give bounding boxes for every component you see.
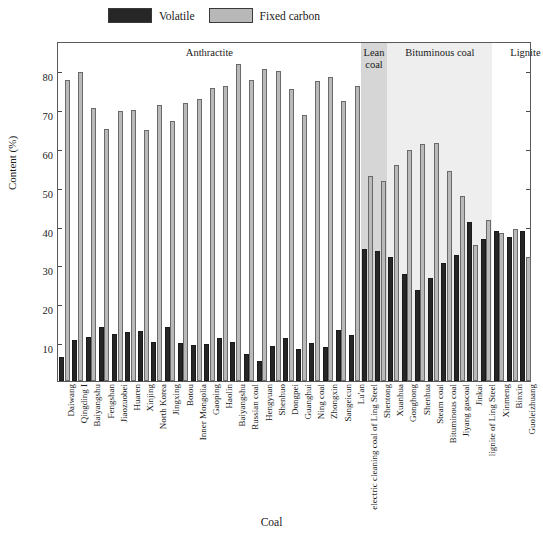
- bar-group[interactable]: [203, 43, 216, 381]
- bar-group[interactable]: [308, 43, 321, 381]
- bar-volatile[interactable]: [72, 340, 77, 381]
- bar-fixed-carbon[interactable]: [407, 150, 412, 381]
- bar-fixed-carbon[interactable]: [289, 89, 294, 381]
- bar-group[interactable]: [506, 43, 519, 381]
- bar-fixed-carbon[interactable]: [315, 81, 320, 381]
- bar-fixed-carbon[interactable]: [276, 71, 281, 381]
- bar-volatile[interactable]: [520, 231, 525, 381]
- bar-volatile[interactable]: [86, 337, 91, 381]
- bar-group[interactable]: [111, 43, 124, 381]
- bar-volatile[interactable]: [138, 331, 143, 381]
- bar-fixed-carbon[interactable]: [144, 130, 149, 381]
- bar-group[interactable]: [282, 43, 295, 381]
- bar-volatile[interactable]: [296, 349, 301, 381]
- bar-volatile[interactable]: [428, 278, 433, 381]
- bar-group[interactable]: [242, 43, 255, 381]
- bar-volatile[interactable]: [362, 249, 367, 381]
- bar-fixed-carbon[interactable]: [262, 69, 267, 381]
- bar-volatile[interactable]: [191, 345, 196, 381]
- bar-group[interactable]: [256, 43, 269, 381]
- bar-group[interactable]: [479, 43, 492, 381]
- bar-fixed-carbon[interactable]: [197, 99, 202, 381]
- bar-group[interactable]: [361, 43, 374, 381]
- bar-volatile[interactable]: [494, 231, 499, 381]
- bar-volatile[interactable]: [125, 332, 130, 381]
- bar-group[interactable]: [137, 43, 150, 381]
- bar-group[interactable]: [163, 43, 176, 381]
- bar-volatile[interactable]: [454, 255, 459, 381]
- bar-fixed-carbon[interactable]: [460, 196, 465, 381]
- bar-volatile[interactable]: [230, 342, 235, 381]
- bar-volatile[interactable]: [257, 361, 262, 381]
- bar-volatile[interactable]: [388, 257, 393, 381]
- bar-fixed-carbon[interactable]: [368, 176, 373, 381]
- bar-group[interactable]: [190, 43, 203, 381]
- bar-fixed-carbon[interactable]: [434, 143, 439, 381]
- bar-group[interactable]: [493, 43, 506, 381]
- bar-fixed-carbon[interactable]: [223, 86, 228, 381]
- bar-group[interactable]: [466, 43, 479, 381]
- bar-volatile[interactable]: [270, 346, 275, 381]
- bar-group[interactable]: [453, 43, 466, 381]
- bar-volatile[interactable]: [217, 338, 222, 381]
- bar-fixed-carbon[interactable]: [65, 80, 70, 381]
- bar-fixed-carbon[interactable]: [381, 181, 386, 381]
- bar-volatile[interactable]: [165, 327, 170, 381]
- bar-group[interactable]: [295, 43, 308, 381]
- bar-group[interactable]: [374, 43, 387, 381]
- bar-fixed-carbon[interactable]: [341, 101, 346, 381]
- bar-fixed-carbon[interactable]: [526, 257, 531, 381]
- bar-fixed-carbon[interactable]: [302, 115, 307, 381]
- bar-volatile[interactable]: [375, 251, 380, 381]
- bar-fixed-carbon[interactable]: [249, 80, 254, 381]
- bar-group[interactable]: [414, 43, 427, 381]
- bar-volatile[interactable]: [481, 239, 486, 381]
- bar-fixed-carbon[interactable]: [328, 77, 333, 381]
- bar-group[interactable]: [335, 43, 348, 381]
- bar-group[interactable]: [400, 43, 413, 381]
- bar-fixed-carbon[interactable]: [104, 129, 109, 381]
- bar-volatile[interactable]: [441, 263, 446, 382]
- bar-volatile[interactable]: [309, 343, 314, 381]
- bar-fixed-carbon[interactable]: [394, 165, 399, 381]
- bar-group[interactable]: [348, 43, 361, 381]
- bar-group[interactable]: [58, 43, 71, 381]
- bar-group[interactable]: [440, 43, 453, 381]
- bar-volatile[interactable]: [204, 344, 209, 381]
- bar-fixed-carbon[interactable]: [486, 220, 491, 381]
- bar-fixed-carbon[interactable]: [447, 171, 452, 381]
- bar-group[interactable]: [216, 43, 229, 381]
- bar-group[interactable]: [269, 43, 282, 381]
- bar-group[interactable]: [177, 43, 190, 381]
- bar-fixed-carbon[interactable]: [355, 86, 360, 381]
- bar-fixed-carbon[interactable]: [91, 108, 96, 381]
- bar-volatile[interactable]: [112, 334, 117, 381]
- bar-volatile[interactable]: [507, 237, 512, 381]
- bar-fixed-carbon[interactable]: [499, 233, 504, 381]
- bar-fixed-carbon[interactable]: [210, 88, 215, 381]
- bar-volatile[interactable]: [323, 347, 328, 381]
- bar-fixed-carbon[interactable]: [473, 245, 478, 381]
- bar-volatile[interactable]: [244, 354, 249, 381]
- bar-fixed-carbon[interactable]: [420, 144, 425, 381]
- bar-fixed-carbon[interactable]: [183, 103, 188, 381]
- bar-volatile[interactable]: [283, 338, 288, 381]
- bar-group[interactable]: [124, 43, 137, 381]
- bar-volatile[interactable]: [402, 274, 407, 381]
- bar-fixed-carbon[interactable]: [236, 64, 241, 381]
- bar-group[interactable]: [321, 43, 334, 381]
- bar-fixed-carbon[interactable]: [131, 110, 136, 381]
- bar-volatile[interactable]: [336, 330, 341, 381]
- bar-volatile[interactable]: [59, 357, 64, 381]
- bar-group[interactable]: [387, 43, 400, 381]
- bar-volatile[interactable]: [99, 327, 104, 381]
- bar-group[interactable]: [519, 43, 532, 381]
- bar-fixed-carbon[interactable]: [118, 111, 123, 381]
- bar-volatile[interactable]: [151, 342, 156, 381]
- bar-volatile[interactable]: [415, 290, 420, 381]
- bar-group[interactable]: [150, 43, 163, 381]
- bar-group[interactable]: [84, 43, 97, 381]
- bar-group[interactable]: [427, 43, 440, 381]
- bar-group[interactable]: [98, 43, 111, 381]
- bar-group[interactable]: [229, 43, 242, 381]
